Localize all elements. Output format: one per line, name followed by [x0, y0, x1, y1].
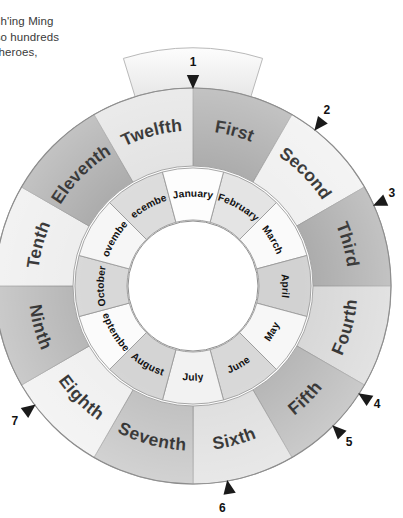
marker-number: 7 — [12, 414, 19, 428]
marker-number: 3 — [389, 186, 396, 200]
marker-triangle-icon[interactable] — [358, 393, 373, 406]
marker-triangle-icon[interactable] — [332, 425, 346, 439]
marker-triangle-icon[interactable] — [314, 116, 328, 131]
marker-triangle-icon[interactable] — [224, 480, 236, 495]
wheel-rim — [0, 88, 391, 484]
marker-number: 5 — [346, 435, 353, 449]
diagram-canvas: Ch'ing Ming lso hundreds , heroes, First… — [0, 0, 403, 518]
wheel-marker[interactable]: 4 — [358, 393, 380, 411]
calendar-wheel[interactable]: FirstSecondThirdFourthFifthSixthSeventhE… — [0, 0, 403, 518]
marker-number: 1 — [190, 55, 197, 69]
wheel-marker[interactable]: 7 — [12, 405, 36, 429]
marker-number: 2 — [324, 103, 331, 117]
wheel-sheen — [0, 88, 391, 484]
marker-number: 4 — [374, 397, 381, 411]
marker-number: 6 — [219, 501, 226, 515]
wheel-marker[interactable]: 6 — [219, 480, 236, 515]
wheel-marker[interactable]: 2 — [314, 103, 330, 131]
wheel-marker[interactable]: 5 — [332, 425, 352, 449]
marker-triangle-icon[interactable] — [21, 405, 36, 418]
marker-triangle-icon[interactable] — [373, 195, 388, 206]
wheel-marker[interactable]: 3 — [373, 186, 396, 205]
